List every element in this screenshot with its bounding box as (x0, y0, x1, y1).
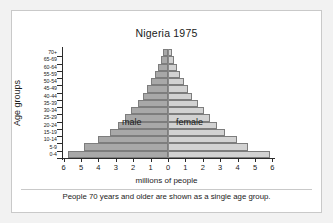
y-tick-label-0-4: 0-4 (23, 152, 57, 157)
y-tick-label-25-29: 25-29 (23, 115, 57, 120)
x-tick-7 (185, 158, 186, 162)
y-tick-45-49 (57, 93, 62, 94)
x-tick-6 (168, 158, 169, 162)
y-tick-15-19 (57, 136, 62, 137)
y-tick-25-29 (57, 122, 62, 123)
x-tick-label-0: 6 (56, 163, 72, 172)
y-tick-label-50-54: 50-54 (23, 79, 57, 84)
x-tick-8 (203, 158, 204, 162)
bar-male-50-54 (151, 78, 168, 85)
caption-divider (21, 189, 312, 190)
y-tick-55-59 (57, 78, 62, 79)
series-label-female: female (176, 117, 203, 127)
x-tick-label-9: 3 (212, 163, 228, 172)
bar-male-40-44 (143, 93, 168, 100)
y-tick-label-5-9: 5-9 (23, 145, 57, 150)
bar-female-30-34 (168, 107, 204, 114)
y-tick-20-24 (57, 129, 62, 130)
y-tick-35-39 (57, 107, 62, 108)
bar-male-15-19 (110, 129, 168, 136)
y-tick-label-45-49: 45-49 (23, 86, 57, 91)
bar-female-50-54 (168, 78, 184, 85)
y-tick-0-4 (57, 158, 62, 159)
x-tick-5 (151, 158, 152, 162)
bar-male-60-64 (158, 64, 168, 71)
bar-male-5-9 (84, 143, 168, 150)
x-tick-label-5: 1 (143, 163, 159, 172)
x-tick-4 (133, 158, 134, 162)
x-tick-0 (64, 158, 65, 162)
y-tick-label-15-19: 15-19 (23, 130, 57, 135)
x-tick-label-7: 1 (177, 163, 193, 172)
x-tick-label-12: 6 (264, 163, 280, 172)
bar-female-10-14 (168, 136, 237, 143)
x-tick-10 (238, 158, 239, 162)
x-tick-label-8: 2 (195, 163, 211, 172)
y-tick-30-34 (57, 114, 62, 115)
y-tick-label-60-64: 60-64 (23, 65, 57, 70)
x-tick-2 (98, 158, 99, 162)
bar-male-35-39 (138, 100, 168, 107)
chart-caption: People 70 years and older are shown as a… (0, 192, 333, 201)
bar-male-45-49 (147, 85, 168, 92)
series-label-male: male (122, 117, 142, 127)
y-tick-label-40-44: 40-44 (23, 94, 57, 99)
x-tick-label-3: 3 (108, 163, 124, 172)
x-tick-11 (255, 158, 256, 162)
y-tick-10-14 (57, 143, 62, 144)
bar-female-15-19 (168, 129, 225, 136)
bar-male-55-59 (155, 71, 168, 78)
y-tick-70+ (57, 56, 62, 57)
y-tick-50-54 (57, 85, 62, 86)
x-tick-1 (81, 158, 82, 162)
bar-female-60-64 (168, 64, 177, 71)
bar-male-0-4 (68, 151, 168, 158)
y-tick-40-44 (57, 100, 62, 101)
x-tick-label-4: 2 (125, 163, 141, 172)
x-tick-9 (220, 158, 221, 162)
y-tick-label-10-14: 10-14 (23, 137, 57, 142)
center-divider-line (168, 49, 169, 158)
bar-male-10-14 (98, 136, 168, 143)
y-tick-label-35-39: 35-39 (23, 101, 57, 106)
y-tick-label-65-69: 65-69 (23, 57, 57, 62)
x-tick-label-2: 4 (90, 163, 106, 172)
y-tick-label-30-34: 30-34 (23, 108, 57, 113)
y-tick-label-70+: 70+ (23, 50, 57, 55)
bar-female-0-4 (168, 151, 270, 158)
x-tick-label-6: 0 (160, 163, 176, 172)
y-tick-65-69 (57, 64, 62, 65)
x-tick-3 (116, 158, 117, 162)
y-tick-label-55-59: 55-59 (23, 72, 57, 77)
bar-female-55-59 (168, 71, 180, 78)
bar-female-40-44 (168, 93, 192, 100)
y-tick-60-64 (57, 71, 62, 72)
bar-male-65-69 (161, 56, 168, 63)
x-tick-label-11: 5 (247, 163, 263, 172)
bar-male-30-34 (131, 107, 168, 114)
x-tick-12 (272, 158, 273, 162)
chart-page: Nigeria 1975 Age groups 0-45-910-1415-19… (0, 0, 333, 223)
bar-female-5-9 (168, 143, 248, 150)
y-tick-5-9 (57, 151, 62, 152)
x-tick-label-10: 4 (230, 163, 246, 172)
bar-female-35-39 (168, 100, 198, 107)
bar-female-45-49 (168, 85, 188, 92)
x-tick-label-1: 5 (73, 163, 89, 172)
y-tick-label-20-24: 20-24 (23, 123, 57, 128)
x-axis-title: millions of people (0, 176, 333, 185)
